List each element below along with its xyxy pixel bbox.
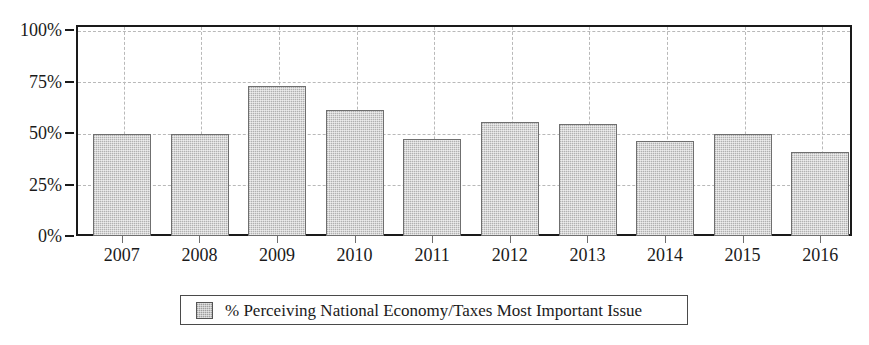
x-axis-label-2008: 2008 [181, 246, 217, 266]
x-axis-tick-2011 [432, 236, 433, 243]
bar-2015[interactable] [714, 134, 772, 236]
y-axis-tick-25 [65, 184, 74, 186]
legend-label: % Perceiving National Economy/Taxes Most… [225, 302, 642, 319]
x-axis-label-2013: 2013 [569, 246, 605, 266]
y-axis-label-75: 75% [29, 73, 62, 91]
x-axis-tick-2007 [122, 236, 123, 243]
bars-group [76, 25, 852, 236]
bar-2009[interactable] [248, 86, 306, 236]
legend-swatch-icon [196, 302, 213, 319]
x-axis-tick-2014 [665, 236, 666, 243]
x-axis-tick-2009 [277, 236, 278, 243]
x-axis-tick-2016 [820, 236, 821, 243]
x-axis-label-2007: 2007 [104, 246, 140, 266]
y-axis-label-0: 0% [38, 227, 62, 245]
x-axis-label-2015: 2015 [725, 246, 761, 266]
bar-chart: 100% 75% 50% 25% 0% [0, 0, 869, 345]
x-axis-labels: 2007 2008 2009 2010 2011 2012 2013 2014 … [76, 246, 852, 276]
y-axis-tick-100 [65, 29, 74, 31]
bar-2016[interactable] [791, 152, 849, 236]
x-axis-tick-2013 [587, 236, 588, 243]
x-axis-label-2016: 2016 [802, 246, 838, 266]
bar-2012[interactable] [481, 122, 539, 236]
y-axis-label-25: 25% [29, 176, 62, 194]
y-axis-tick-50 [65, 132, 74, 134]
x-axis-label-2011: 2011 [415, 246, 450, 266]
x-axis-label-2014: 2014 [647, 246, 683, 266]
bar-2010[interactable] [326, 110, 384, 236]
x-axis-label-2012: 2012 [492, 246, 528, 266]
x-axis-label-2009: 2009 [259, 246, 295, 266]
bar-2008[interactable] [171, 134, 229, 236]
x-axis-tick-2015 [743, 236, 744, 243]
y-axis: 100% 75% 50% 25% 0% [0, 0, 76, 260]
x-axis-tick-2008 [199, 236, 200, 243]
y-axis-label-50: 50% [29, 124, 62, 142]
legend: % Perceiving National Economy/Taxes Most… [180, 295, 688, 325]
bar-2007[interactable] [93, 134, 151, 236]
x-axis-tick-2010 [355, 236, 356, 243]
bar-2014[interactable] [636, 141, 694, 236]
bar-2013[interactable] [559, 124, 617, 236]
y-axis-tick-0 [65, 235, 74, 237]
x-axis-label-2010: 2010 [337, 246, 373, 266]
x-axis-tick-2012 [510, 236, 511, 243]
y-axis-tick-75 [65, 81, 74, 83]
bar-2011[interactable] [403, 139, 461, 236]
y-axis-label-100: 100% [20, 21, 62, 39]
